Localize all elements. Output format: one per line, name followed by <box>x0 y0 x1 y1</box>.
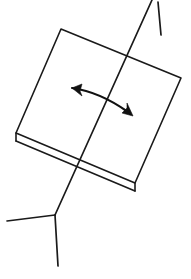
background <box>0 0 191 279</box>
figure-canvas: Music stand with tilt adjustment arrow <box>0 0 191 279</box>
music-stand-drawing <box>0 0 191 279</box>
